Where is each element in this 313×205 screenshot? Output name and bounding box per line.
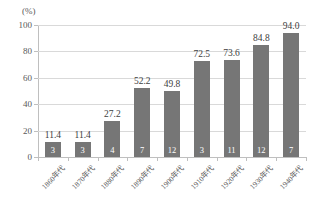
bar-slot: 794.0 (276, 25, 306, 157)
bar-inner-count-label: 3 (51, 145, 55, 155)
bar-slot: 1249.8 (157, 25, 187, 157)
bar-slot: 311.4 (38, 25, 68, 157)
x-axis-tick-mark (38, 157, 39, 161)
bar-value-label: 27.2 (104, 109, 121, 119)
bar-value-label: 11.4 (45, 130, 61, 140)
bar-slot: 752.2 (127, 25, 157, 157)
bar[interactable]: 3 (194, 61, 210, 157)
bar-value-label: 94.0 (283, 21, 300, 31)
y-axis-tick-label: 80 (6, 46, 32, 56)
y-axis-tick-label: 40 (6, 99, 32, 109)
bar-value-label: 73.6 (223, 48, 240, 58)
y-axis-tick-label: 100 (6, 20, 32, 30)
bar-value-label: 72.5 (193, 49, 210, 59)
bar-slot: 311.4 (68, 25, 98, 157)
bar-slot: 1284.8 (246, 25, 276, 157)
bar-slot: 427.2 (98, 25, 128, 157)
bar[interactable]: 11 (224, 60, 240, 157)
y-axis-tick-label: 60 (6, 73, 32, 83)
bar-value-label: 52.2 (134, 76, 151, 86)
bar[interactable]: 12 (253, 45, 269, 157)
y-axis-tick-label: 0 (6, 152, 32, 162)
bar-value-label: 11.4 (75, 130, 91, 140)
y-axis-unit-label: (%) (22, 6, 36, 16)
bar-chart: (%) 020406080100 311.4311.4427.2752.2124… (0, 0, 313, 205)
bar-value-label: 49.8 (164, 79, 181, 89)
bar-slot: 1173.6 (217, 25, 247, 157)
bar-value-label: 84.8 (253, 33, 270, 43)
bar-slot: 372.5 (187, 25, 217, 157)
y-axis-tick-label: 20 (6, 126, 32, 136)
bars-group: 311.4311.4427.2752.21249.8372.51173.6128… (38, 25, 306, 157)
bar[interactable]: 3 (45, 142, 61, 157)
bar[interactable]: 7 (283, 33, 299, 157)
